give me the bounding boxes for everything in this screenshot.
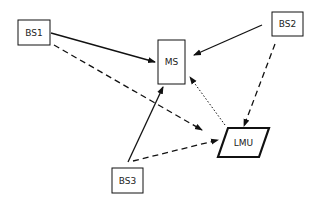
edge-bs2-lmu <box>244 44 275 126</box>
node-lmu: LMU <box>218 128 269 157</box>
edge-bs2-ms <box>194 25 262 55</box>
node-bs1-label: BS1 <box>25 28 42 38</box>
edge-lmu-ms <box>190 77 225 125</box>
node-bs3-label: BS3 <box>119 176 136 186</box>
node-bs2: BS2 <box>272 12 303 36</box>
edge-bs3-lmu <box>133 140 218 161</box>
node-bs3: BS3 <box>112 168 143 193</box>
network-diagram: BS1 BS2 BS3 MS LMU <box>0 0 319 204</box>
node-ms: MS <box>158 40 185 84</box>
node-ms-label: MS <box>165 57 179 67</box>
edge-bs1-ms <box>51 33 155 62</box>
node-bs2-label: BS2 <box>279 19 296 29</box>
node-bs1: BS1 <box>18 20 50 45</box>
node-lmu-label: LMU <box>234 138 253 148</box>
